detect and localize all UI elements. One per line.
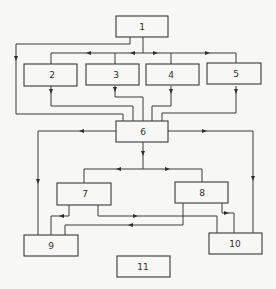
block-11: 11: [117, 256, 170, 277]
block-label: 7: [82, 189, 88, 199]
block-3: 3: [86, 64, 139, 85]
block-6: 6: [116, 121, 168, 142]
block-10: 10: [209, 233, 262, 254]
block-8: 8: [175, 182, 228, 203]
block-5: 5: [207, 63, 261, 84]
block-1: 1: [116, 16, 168, 37]
block-label: 10: [229, 239, 241, 249]
block-label: 3: [113, 70, 119, 80]
block-label: 11: [137, 262, 148, 272]
block-label: 6: [140, 127, 146, 137]
block-label: 5: [233, 69, 239, 79]
block-4: 4: [146, 64, 199, 85]
block-2: 2: [24, 64, 77, 86]
block-7: 7: [57, 183, 111, 205]
block-label: 4: [168, 70, 174, 80]
block-label: 8: [199, 188, 205, 198]
block-label: 2: [49, 70, 55, 80]
block-diagram: 1 2 3 4 5 6 7 8 9 10 11: [0, 0, 276, 289]
block-label: 1: [139, 22, 145, 32]
block-label: 9: [48, 241, 54, 251]
block-9: 9: [24, 235, 78, 256]
